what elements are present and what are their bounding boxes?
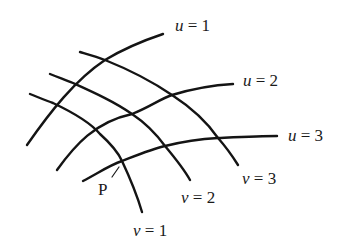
label-u1-variable: u <box>175 16 184 35</box>
label-v1: v = 1 <box>133 222 167 239</box>
label-u3: u = 3 <box>288 127 323 144</box>
label-v3: v = 3 <box>242 170 276 187</box>
label-v2-eq: = <box>193 188 203 207</box>
point-p-text: P <box>98 180 107 199</box>
label-v1-variable: v <box>133 221 141 240</box>
point-p-pointer <box>112 167 119 177</box>
label-u2-variable: u <box>243 71 252 90</box>
label-u2: u = 2 <box>243 72 278 89</box>
label-v2-value: 2 <box>207 188 216 207</box>
label-v1-eq: = <box>145 221 155 240</box>
label-v3-variable: v <box>242 169 250 188</box>
label-u1-eq: = <box>188 16 198 35</box>
label-u2-eq: = <box>256 71 266 90</box>
label-v3-value: 3 <box>268 169 277 188</box>
label-u2-value: 2 <box>270 71 279 90</box>
label-u3-value: 3 <box>315 126 324 145</box>
label-v2-variable: v <box>181 188 189 207</box>
coordinate-grid-diagram <box>0 0 345 246</box>
label-v3-eq: = <box>254 169 264 188</box>
label-u1-value: 1 <box>202 16 211 35</box>
curve-u2 <box>57 84 233 170</box>
label-u1: u = 1 <box>175 17 210 34</box>
label-v2: v = 2 <box>181 189 215 206</box>
curve-v1 <box>30 94 142 212</box>
label-v1-value: 1 <box>159 221 168 240</box>
label-u3-eq: = <box>301 126 311 145</box>
label-u3-variable: u <box>288 126 297 145</box>
point-p-label: P <box>98 181 107 198</box>
